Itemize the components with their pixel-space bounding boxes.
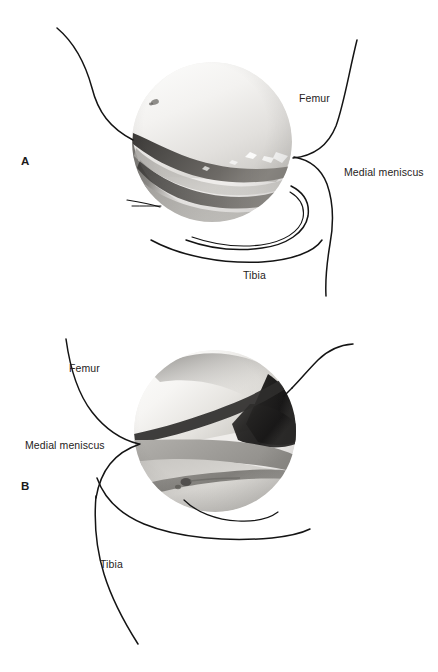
figure-root: A B Femur Medial meniscus Tibia Femur Me…: [0, 0, 438, 672]
panel-letter-b: B: [21, 481, 30, 493]
figure-linework: [0, 0, 438, 672]
label-b-femur: Femur: [69, 363, 100, 374]
label-a-femur: Femur: [299, 93, 330, 104]
label-b-medial-meniscus: Medial meniscus: [25, 440, 105, 451]
panel-b-photo: [134, 350, 296, 512]
label-a-tibia: Tibia: [243, 270, 266, 281]
tibia-contour-a: [151, 240, 322, 262]
panel-letter-a: A: [21, 156, 30, 168]
femur-contour-left-b: [66, 339, 139, 444]
femur-contour-right-b: [292, 344, 353, 388]
label-b-tibia: Tibia: [100, 559, 123, 570]
label-a-medial-meniscus: Medial meniscus: [344, 167, 424, 178]
panel-a-photo: [132, 62, 292, 222]
femur-contour-left-a: [57, 28, 133, 140]
